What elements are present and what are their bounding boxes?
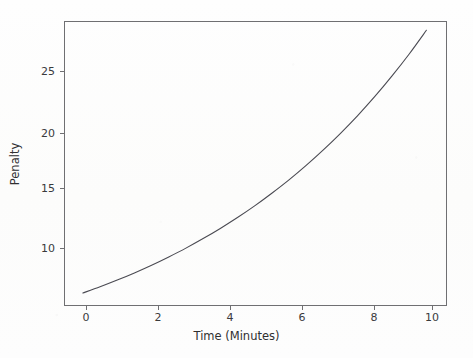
penalty-line-series	[83, 30, 427, 293]
y-tick-15	[60, 188, 64, 189]
x-ticklabel-8: 8	[371, 311, 378, 324]
y-tick-20	[60, 133, 64, 134]
penalty-vs-time-figure: 0 2 4 6 8 10 25 20 15 10 Time (Minutes) …	[0, 0, 473, 358]
x-tick-2	[158, 306, 159, 310]
x-ticklabel-10: 10	[425, 311, 439, 324]
y-ticklabel-25: 25	[25, 65, 55, 78]
y-tick-25	[60, 71, 64, 72]
curve-layer	[64, 21, 447, 306]
y-tick-10	[60, 248, 64, 249]
chart-screenshot: 0 2 4 6 8 10 25 20 15 10 Time (Minutes) …	[0, 0, 473, 358]
x-tick-10	[432, 306, 433, 310]
x-tick-6	[302, 306, 303, 310]
x-tick-8	[374, 306, 375, 310]
x-ticklabel-2: 2	[155, 311, 162, 324]
x-tick-4	[230, 306, 231, 310]
x-tick-0	[86, 306, 87, 310]
y-ticklabel-20: 20	[25, 127, 55, 140]
y-axis-label: Penalty	[8, 143, 22, 185]
x-ticklabel-0: 0	[83, 311, 90, 324]
x-axis-label: Time (Minutes)	[0, 329, 473, 343]
x-ticklabel-4: 4	[227, 311, 234, 324]
y-ticklabel-10: 10	[25, 242, 55, 255]
x-ticklabel-6: 6	[299, 311, 306, 324]
y-ticklabel-15: 15	[25, 182, 55, 195]
